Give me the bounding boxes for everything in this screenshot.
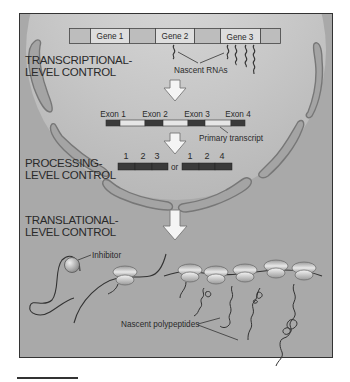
svg-text:TRANSLATIONAL-: TRANSLATIONAL- [25,214,119,226]
gene-3-label: Gene 3 [227,33,254,42]
spliced-mrna-option-a [118,163,168,170]
svg-text:PROCESSING-: PROCESSING- [25,157,103,169]
inhibitor-protein [65,258,80,273]
scale-bar [17,377,78,379]
svg-text:TRANSCRIPTIONAL-: TRANSCRIPTIONAL- [25,54,132,66]
primary-transcript-bar [106,120,245,126]
exon-4-label: Exon 4 [225,110,251,119]
option-b-num-2: 2 [204,151,209,161]
gene-1-label: Gene 1 [97,32,124,41]
exon-3-label: Exon 3 [184,110,210,119]
nascent-rnas-label: Nascent RNAs [174,66,228,75]
or-separator: or [171,163,179,172]
svg-text:LEVEL CONTROL: LEVEL CONTROL [25,66,117,78]
translational-control-label: TRANSLATIONAL- LEVEL CONTROL [25,214,119,238]
option-a-num-3: 3 [154,151,159,161]
option-a-num-2: 2 [140,151,145,161]
primary-transcript-label: Primary transcript [199,134,264,143]
svg-text:LEVEL CONTROL: LEVEL CONTROL [25,169,117,181]
nascent-polypeptides-label: Nascent polypeptides [121,320,199,329]
inhibitor-label: Inhibitor [92,251,121,260]
option-a-num-1: 1 [123,151,128,161]
svg-text:LEVEL CONTROL: LEVEL CONTROL [25,226,117,238]
gene-expression-diagram: Gene 1 Gene 2 Gene 3 Nascent RNAs TRANSC… [0,0,350,382]
spliced-mrna-option-b [182,163,232,170]
exon-1-label: Exon 1 [100,110,126,119]
option-b-num-1: 1 [187,151,192,161]
option-b-num-3: 4 [219,151,224,161]
gene-2-label: Gene 2 [162,32,189,41]
exon-2-label: Exon 2 [142,110,168,119]
